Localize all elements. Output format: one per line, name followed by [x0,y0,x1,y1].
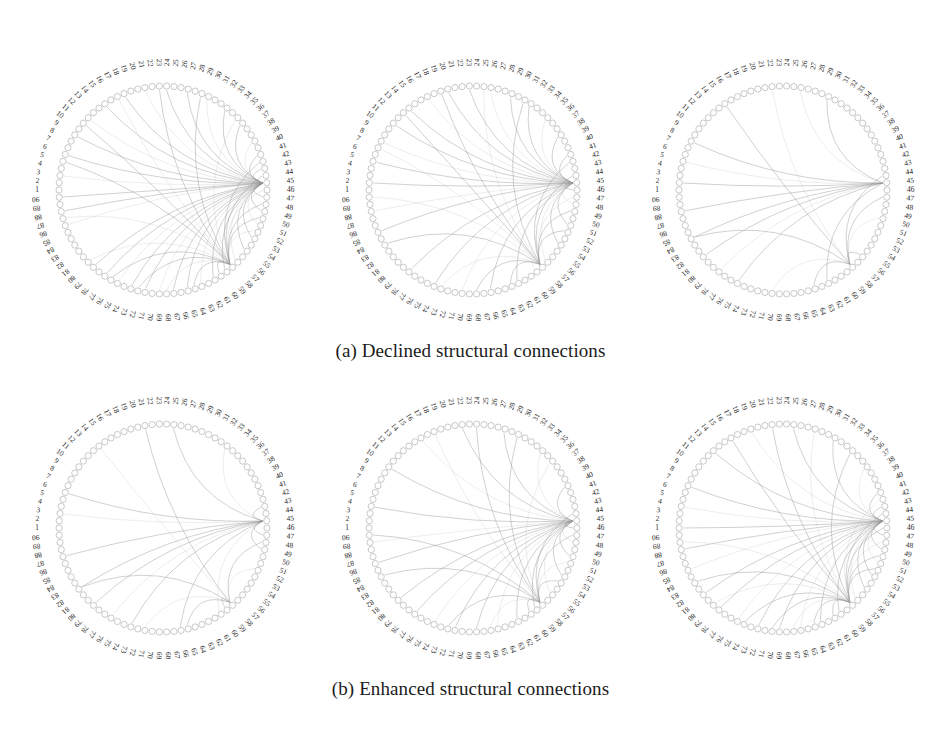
node-marker[interactable] [58,547,64,553]
node-marker[interactable] [495,288,501,294]
node-marker[interactable] [252,574,258,580]
node-marker[interactable] [864,464,870,470]
node-marker[interactable] [844,105,850,111]
node-marker[interactable] [825,280,831,286]
node-marker[interactable] [550,458,556,464]
node-marker[interactable] [378,236,384,242]
node-marker[interactable] [481,290,487,296]
node-marker[interactable] [502,88,508,94]
node-marker[interactable] [728,97,734,103]
node-marker[interactable] [406,105,412,111]
node-marker[interactable] [264,525,270,531]
node-marker[interactable] [554,248,560,254]
node-marker[interactable] [128,286,134,292]
node-marker[interactable] [76,586,82,592]
node-marker[interactable] [819,621,825,627]
node-marker[interactable] [762,627,768,633]
node-marker[interactable] [762,422,768,428]
node-marker[interactable] [572,503,578,509]
node-marker[interactable] [755,626,761,632]
node-marker[interactable] [62,489,68,495]
node-marker[interactable] [798,627,804,633]
node-marker[interactable] [838,273,844,279]
node-marker[interactable] [80,592,86,598]
node-marker[interactable] [366,194,372,200]
node-marker[interactable] [80,458,86,464]
node-marker[interactable] [244,126,250,132]
node-marker[interactable] [728,615,734,621]
node-marker[interactable] [882,547,888,553]
node-marker[interactable] [264,180,270,186]
node-marker[interactable] [705,453,711,459]
node-marker[interactable] [515,93,521,99]
node-marker[interactable] [395,453,401,459]
node-marker[interactable] [156,291,162,297]
node-marker[interactable] [85,259,91,265]
node-marker[interactable] [502,624,508,630]
node-marker[interactable] [424,618,430,624]
node-marker[interactable] [262,165,268,171]
node-marker[interactable] [682,489,688,495]
node-marker[interactable] [562,574,568,580]
node-marker[interactable] [734,618,740,624]
node-marker[interactable] [515,431,521,437]
node-marker[interactable] [65,567,71,573]
node-marker[interactable] [509,90,515,96]
node-marker[interactable] [263,172,269,178]
node-marker[interactable] [849,448,855,454]
node-marker[interactable] [258,489,264,495]
node-marker[interactable] [178,422,184,428]
node-marker[interactable] [819,428,825,434]
node-marker[interactable] [509,428,515,434]
node-marker[interactable] [114,431,120,437]
node-marker[interactable] [573,510,579,516]
node-marker[interactable] [135,424,141,430]
node-marker[interactable] [178,289,184,295]
node-marker[interactable] [565,483,571,489]
node-marker[interactable] [367,201,373,207]
node-marker[interactable] [534,105,540,111]
node-marker[interactable] [748,624,754,630]
node-marker[interactable] [696,586,702,592]
node-marker[interactable] [121,621,127,627]
node-marker[interactable] [688,574,694,580]
node-marker[interactable] [488,422,494,428]
node-marker[interactable] [495,424,501,430]
node-marker[interactable] [255,567,261,573]
node-marker[interactable] [149,628,155,634]
node-marker[interactable] [562,138,568,144]
node-marker[interactable] [572,209,578,215]
node-marker[interactable] [178,84,184,90]
node-marker[interactable] [884,532,890,538]
node-marker[interactable] [539,264,545,270]
node-marker[interactable] [185,626,191,632]
node-marker[interactable] [412,273,418,279]
node-marker[interactable] [844,443,850,449]
node-marker[interactable] [128,426,134,432]
node-marker[interactable] [784,421,790,427]
node-marker[interactable] [710,602,716,608]
node-marker[interactable] [868,132,874,138]
node-marker[interactable] [692,132,698,138]
node-marker[interactable] [522,435,528,441]
node-marker[interactable] [205,618,211,624]
node-marker[interactable] [528,101,534,107]
node-marker[interactable] [382,132,388,138]
node-marker[interactable] [260,158,266,164]
node-marker[interactable] [466,83,472,89]
node-marker[interactable] [378,476,384,482]
node-marker[interactable] [102,101,108,107]
node-marker[interactable] [171,628,177,634]
node-marker[interactable] [386,586,392,592]
node-marker[interactable] [883,510,889,516]
node-marker[interactable] [474,629,480,635]
node-marker[interactable] [128,624,134,630]
node-marker[interactable] [762,289,768,295]
node-marker[interactable] [390,592,396,598]
node-marker[interactable] [171,83,177,89]
node-marker[interactable] [56,518,62,524]
node-marker[interactable] [568,560,574,566]
node-marker[interactable] [722,439,728,445]
node-marker[interactable] [522,277,528,283]
node-marker[interactable] [680,216,686,222]
